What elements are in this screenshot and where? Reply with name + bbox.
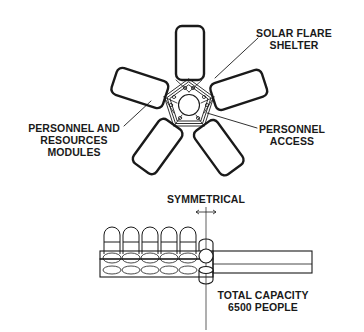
solar-flare-shelter-core	[179, 95, 200, 116]
space-habitat-diagram: SOLAR FLARE SHELTER PERSONNEL AND RESOUR…	[0, 0, 364, 332]
label-symmetrical: SYMMETRICAL	[164, 193, 248, 205]
hub-frame	[164, 79, 213, 126]
bar-lattice	[103, 253, 197, 274]
label-solar-flare-shelter: SOLAR FLARE SHELTER	[254, 27, 334, 51]
module-arm	[110, 26, 269, 178]
stacked-modules	[104, 227, 196, 254]
label-total-capacity: TOTAL CAPACITY 6500 PEOPLE	[209, 289, 317, 313]
label-personnel-resources-modules: PERSONNEL AND RESOURCES MODULES	[24, 122, 124, 158]
label-personnel-access: PERSONNEL ACCESS	[254, 123, 330, 147]
